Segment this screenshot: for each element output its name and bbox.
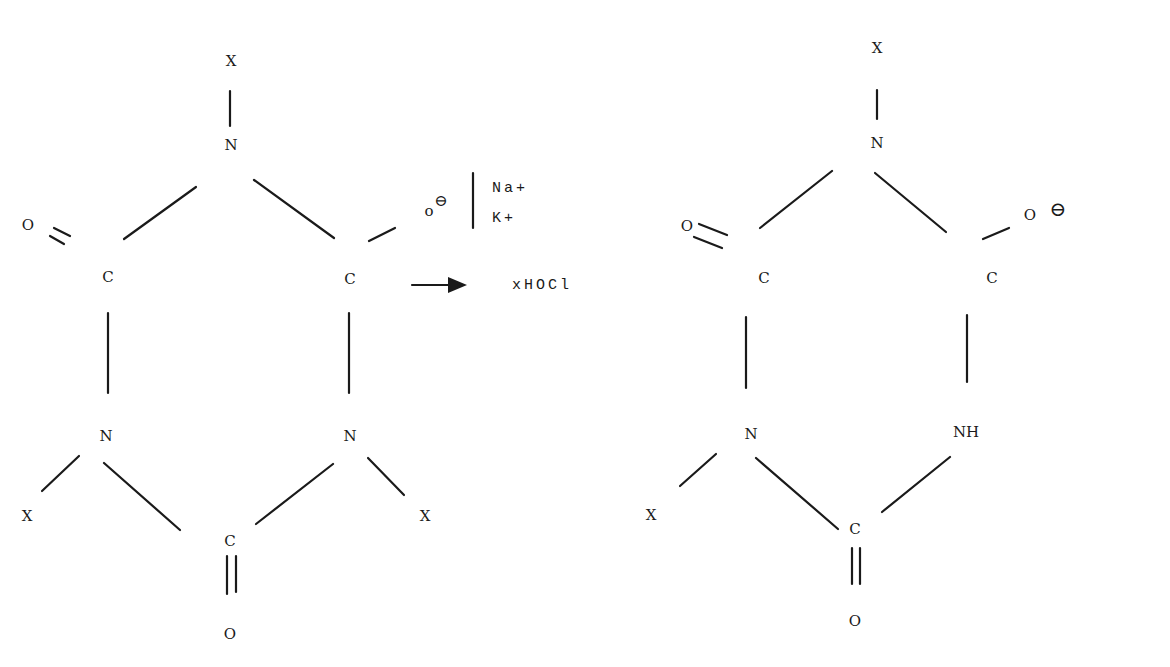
atom-o-bottom: O bbox=[849, 612, 861, 630]
bond-n-x-right bbox=[368, 458, 404, 495]
atom-n-top: N bbox=[224, 136, 237, 154]
bond-n-c-left bbox=[760, 171, 832, 228]
atom-c-right: C bbox=[986, 269, 997, 287]
negative-charge-icon: ⊖ bbox=[1050, 197, 1067, 221]
atom-c-bottom: C bbox=[849, 520, 860, 538]
counterion-k: K+ bbox=[492, 210, 516, 227]
bond-double-o-left-1 bbox=[54, 228, 70, 236]
atom-x-top: X bbox=[872, 39, 883, 57]
atom-x-left: X bbox=[22, 507, 33, 525]
bond-n-c-right bbox=[254, 180, 334, 238]
bond-c-o-right bbox=[983, 228, 1009, 239]
bond-double-o-left-1 bbox=[699, 224, 727, 235]
bond-double-o-left-2 bbox=[50, 236, 64, 244]
atom-n-left: N bbox=[99, 427, 112, 445]
reactant-molecule: X N O C C o ⊖ Na+ K+ N N X X C O bbox=[22, 52, 528, 643]
atom-x-top: X bbox=[226, 52, 237, 70]
bond-n-x-left bbox=[42, 456, 79, 491]
atom-c-bottom: C bbox=[224, 532, 235, 550]
bond-n-c-bottom bbox=[756, 458, 838, 529]
reaction-arrow bbox=[412, 277, 467, 293]
bond-n-c-left bbox=[124, 187, 196, 239]
atom-o-left: O bbox=[681, 217, 693, 235]
atom-c-right: C bbox=[344, 270, 355, 288]
atom-c-left: C bbox=[102, 268, 113, 286]
bond-n-x-left bbox=[680, 454, 716, 486]
negative-charge-icon: ⊖ bbox=[434, 191, 447, 210]
atom-nh-right: NH bbox=[953, 423, 979, 441]
atom-c-left: C bbox=[758, 269, 769, 287]
atom-o-bottom: O bbox=[224, 625, 236, 643]
atom-n-right: N bbox=[343, 427, 356, 445]
reagent-label: xHOCl bbox=[512, 277, 572, 294]
bond-n-c-right bbox=[875, 173, 946, 232]
bond-n-c-bottom-left bbox=[104, 463, 180, 530]
atom-o-right: O bbox=[1024, 206, 1036, 224]
bond-n-c-bottom-right bbox=[256, 464, 333, 524]
bond-nh-c-bottom bbox=[882, 457, 950, 512]
atom-x-right: X bbox=[420, 507, 431, 525]
reaction-diagram: X N O C C o ⊖ Na+ K+ N N X X C O x bbox=[0, 0, 1170, 667]
atom-n-left: N bbox=[744, 425, 757, 443]
bond-double-o-left-2 bbox=[694, 237, 722, 248]
bond-c-o-right bbox=[369, 228, 395, 241]
atom-o-left: O bbox=[22, 216, 34, 234]
arrow-right-icon bbox=[448, 277, 467, 293]
counterion-na: Na+ bbox=[492, 180, 528, 197]
atom-x-left: X bbox=[646, 506, 657, 524]
atom-o-right: o bbox=[424, 202, 433, 220]
product-molecule: X N O C C O ⊖ N NH X C O bbox=[646, 39, 1067, 630]
atom-n-top: N bbox=[870, 134, 883, 152]
